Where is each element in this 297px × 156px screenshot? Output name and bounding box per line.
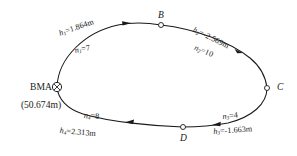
benchmark-elevation: (50.674m)	[4, 99, 78, 110]
point-label-b: B	[158, 11, 164, 21]
benchmark-point-letter: A	[45, 81, 52, 92]
n3-value: =4	[229, 110, 239, 120]
benchmark-prefix: BM	[30, 81, 45, 92]
n1-value: =7	[81, 43, 91, 53]
direction-arrow-ab	[122, 21, 131, 25]
segment-label-n4: n4=8	[84, 112, 100, 121]
segment-path-c-d	[183, 88, 267, 127]
point-marker-d	[181, 125, 186, 130]
point-marker-c	[265, 86, 270, 91]
segment-label-n3: n3=4	[222, 111, 238, 121]
benchmark-label-block: BMA (50.674m)	[4, 76, 78, 110]
leveling-loop-figure: h1=1.864m n1=7 h2=-2.569m n2=10 h3=-1.66…	[0, 0, 297, 156]
point-label-c: C	[277, 83, 283, 93]
point-label-d: D	[180, 134, 187, 144]
n4-value: =8	[90, 111, 99, 120]
point-marker-b	[159, 23, 164, 28]
benchmark-name: BMA	[30, 81, 52, 92]
